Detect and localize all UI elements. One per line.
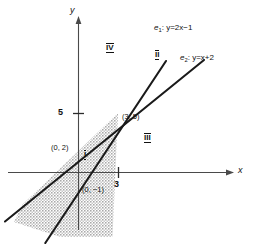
point-label-0-minus1: (0, −1) — [82, 186, 104, 194]
y-tick-label-5: 5 — [58, 108, 63, 117]
x-axis-label: x — [238, 166, 243, 175]
line-label-e1-equation: : y=2x−1 — [162, 23, 193, 32]
region-label-IV: IV — [106, 43, 114, 53]
y-axis-arrow — [76, 16, 82, 24]
region-label-I: I — [84, 150, 86, 160]
shaded-region — [14, 113, 118, 237]
graph-figure: y x 5 3 (0, 2) (0, −1) (3, 5) I II III I… — [0, 0, 255, 251]
point-label-0-2: (0, 2) — [51, 144, 69, 152]
x-axis-arrow — [226, 170, 234, 176]
region-label-III: III — [144, 133, 151, 143]
graph-canvas — [0, 0, 255, 251]
y-axis-label: y — [70, 6, 75, 15]
region-label-II: II — [155, 50, 159, 60]
line-label-e1: e1: y=2x−1 — [154, 24, 192, 34]
point-label-3-5: (3, 5) — [122, 113, 140, 121]
x-tick-label-3: 3 — [114, 180, 119, 189]
line-label-e2-equation: : y=x+2 — [188, 53, 214, 62]
line-label-e2: e2: y=x+2 — [180, 54, 214, 64]
